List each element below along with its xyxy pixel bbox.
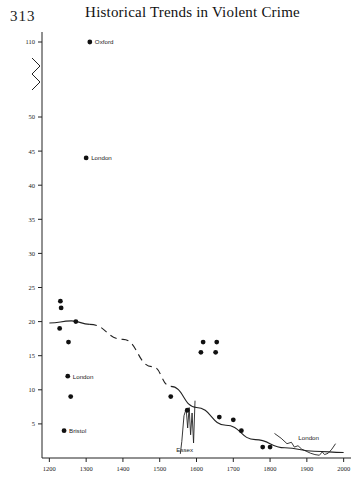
- data-point: [65, 374, 70, 379]
- data-point: [73, 319, 78, 324]
- x-axis-ticks: 120013001400150016001700180019002000: [43, 458, 350, 472]
- data-point: [185, 408, 190, 413]
- data-point: [201, 340, 206, 345]
- trend-curve-early: [49, 321, 89, 324]
- x-tick-label-1500: 1500: [153, 465, 166, 472]
- x-tick-label-1400: 1400: [116, 465, 129, 472]
- data-point: [239, 428, 244, 433]
- y-tick-label-50: 50: [29, 113, 36, 120]
- data-point: [62, 428, 67, 433]
- y-tick-label-10: 10: [29, 386, 36, 393]
- data-point: [168, 394, 173, 399]
- x-tick-label-1700: 1700: [227, 465, 240, 472]
- chart-plot-area: 1105045403530252015105 12001300140015001…: [0, 0, 363, 481]
- chart-svg: 1105045403530252015105 12001300140015001…: [0, 0, 363, 481]
- x-tick-label-1800: 1800: [264, 465, 277, 472]
- data-point: [58, 299, 63, 304]
- data-point: [217, 415, 222, 420]
- annotation-label-london: London: [298, 434, 319, 441]
- data-point: [68, 394, 73, 399]
- data-point: [260, 445, 265, 450]
- data-point: [84, 156, 89, 161]
- trend-curve-late: [171, 386, 344, 452]
- y-tick-label-45: 45: [29, 148, 36, 155]
- y-axis-ticks: 1105045403530252015105: [25, 38, 42, 427]
- annotations-group: OxfordLondonLondonBristolEssexLondon: [69, 38, 320, 453]
- data-point: [214, 340, 219, 345]
- y-tick-label-5: 5: [32, 420, 35, 427]
- x-tick-label-2000: 2000: [337, 465, 350, 472]
- y-tick-label-30: 30: [29, 250, 36, 257]
- annotation-label-london: London: [73, 373, 94, 380]
- y-tick-label-25: 25: [29, 284, 36, 291]
- data-point: [268, 445, 273, 450]
- annotation-label-oxford: Oxford: [95, 38, 114, 45]
- x-tick-label-1900: 1900: [300, 465, 313, 472]
- axes-group: [32, 32, 351, 458]
- data-point: [231, 417, 236, 422]
- x-tick-label-1600: 1600: [190, 465, 203, 472]
- y-tick-label-15: 15: [29, 352, 36, 359]
- x-tick-label-1300: 1300: [80, 465, 93, 472]
- annotation-label-essex: Essex: [176, 446, 194, 453]
- data-point: [59, 306, 64, 311]
- y-tick-label-20: 20: [29, 318, 36, 325]
- data-point: [199, 350, 204, 355]
- annotation-label-bristol: Bristol: [69, 427, 86, 434]
- data-point: [66, 340, 71, 345]
- annotation-label-london: London: [91, 154, 112, 161]
- y-tick-label-40: 40: [29, 182, 36, 189]
- axis-break-mark: [32, 58, 40, 90]
- data-point: [87, 40, 92, 45]
- trend-curve-group: [49, 321, 343, 453]
- trend-curve-interpolated: [90, 324, 171, 386]
- y-tick-label-110: 110: [25, 38, 35, 45]
- data-point: [57, 326, 62, 331]
- data-point: [213, 350, 218, 355]
- x-tick-label-1200: 1200: [43, 465, 56, 472]
- data-points-group: [57, 40, 272, 450]
- y-tick-label-35: 35: [29, 216, 36, 223]
